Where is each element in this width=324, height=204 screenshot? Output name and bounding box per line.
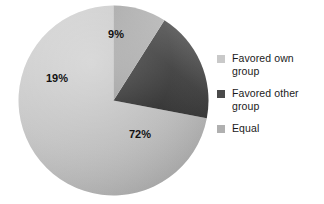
chart-legend: Favored own group Favored other group Eq… (217, 52, 323, 135)
legend-label-equal: Equal (232, 122, 259, 135)
pie-label-favored-other-group: 19% (46, 72, 68, 84)
legend-item-equal[interactable]: Equal (217, 122, 323, 135)
legend-swatch-favored-own-group (217, 55, 225, 63)
legend-label-favored-other-group: Favored other group (232, 87, 299, 112)
legend-item-favored-own-group[interactable]: Favored own group (217, 52, 323, 77)
pie-svg: 9% 19% 72% (18, 5, 209, 196)
legend-swatch-equal (217, 125, 225, 133)
legend-swatch-favored-other-group (217, 90, 225, 98)
pie-label-favored-own-group: 72% (129, 128, 151, 140)
legend-label-favored-own-group: Favored own group (232, 52, 294, 77)
legend-item-favored-other-group[interactable]: Favored other group (217, 87, 323, 112)
pie-chart-figure: 9% 19% 72% Favored own group Favored oth… (0, 0, 324, 204)
pie-chart-graphic: 9% 19% 72% (18, 5, 209, 196)
pie-label-equal: 9% (108, 28, 124, 40)
